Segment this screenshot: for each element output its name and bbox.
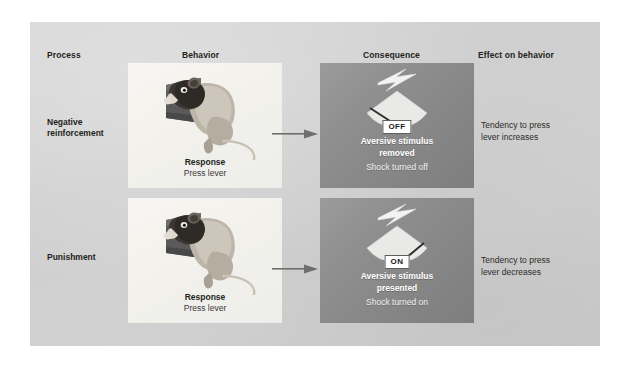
arrow-row-2 [272,261,320,273]
consequence-subtitle-row-1: Shock turned off [320,161,474,173]
status-badge-row-1: OFF [382,120,411,134]
process-label-row-2-line1: Punishment [47,252,96,262]
column-header-behavior: Behavior [182,50,219,60]
consequence-caption-row-2: Aversive stimulus presented Shock turned… [320,271,474,308]
consequence-panel-row-1: OFF Aversive stimulus removed Shock turn… [320,63,474,188]
figure-stage: Process Behavior Consequence Effect on b… [0,0,631,369]
consequence-caption-row-1: Aversive stimulus removed Shock turned o… [320,136,474,173]
rat-pressing-lever-icon [128,200,282,295]
response-caption-row-2: Response Press lever [128,292,282,314]
behavior-panel-row-1: Response Press lever [128,63,282,188]
effect-row-1-line1: Tendency to press [481,120,550,130]
response-caption-row-1: Response Press lever [128,157,282,179]
consequence-title-row-2-line1: Aversive stimulus [320,271,474,283]
effect-row-2-line2: lever decreases [481,267,541,277]
response-title-row-1: Response [128,157,282,168]
behavior-panel-row-2: Response Press lever [128,198,282,323]
lightning-bolt-over-shock-grid-icon [320,63,474,125]
column-header-process: Process [47,50,81,60]
response-title-row-2: Response [128,292,282,303]
effect-text-row-1: Tendency to press lever increases [481,120,586,143]
consequence-title-row-2-line2: presented [320,283,474,295]
effect-row-1-line2: lever increases [481,132,538,142]
consequence-subtitle-row-2: Shock turned on [320,296,474,308]
consequence-title-row-1-line1: Aversive stimulus [320,136,474,148]
status-badge-row-2: ON [385,255,410,269]
rat-pressing-lever-icon [128,65,282,160]
effect-text-row-2: Tendency to press lever decreases [481,255,586,278]
column-header-effect: Effect on behavior [478,50,554,60]
consequence-title-row-1-line2: removed [320,148,474,160]
process-label-row-1-line2: reinforcement [47,128,104,138]
figure-panel [30,22,600,346]
process-label-row-1-line1: Negative [47,117,82,127]
lightning-bolt-over-shock-grid-icon [320,198,474,260]
effect-row-2-line1: Tendency to press [481,255,550,265]
response-sub-row-2: Press lever [128,303,282,314]
column-header-consequence: Consequence [363,50,420,60]
response-sub-row-1: Press lever [128,168,282,179]
arrow-row-1 [272,126,320,138]
consequence-panel-row-2: ON Aversive stimulus presented Shock tur… [320,198,474,323]
